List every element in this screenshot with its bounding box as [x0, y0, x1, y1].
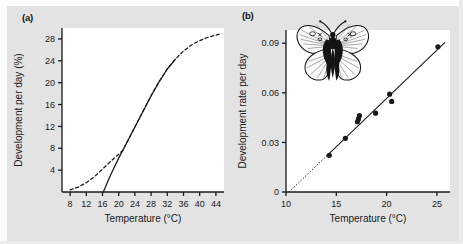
panel-a-plot: 4812162024288121620242832364044Temperatu… — [0, 0, 232, 244]
x-tick-label: 8 — [68, 199, 73, 209]
panel-b: 00.030.060.0910152025Temperature (°C)Dev… — [228, 0, 463, 244]
x-tick-label: 20 — [382, 199, 392, 209]
y-tick-label: 24 — [45, 56, 55, 66]
panel-a: 4812162024288121620242832364044Temperatu… — [0, 0, 232, 244]
x-tick-label: 16 — [97, 199, 107, 209]
butterfly-antenna-club-left — [319, 20, 321, 22]
y-tick-label: 20 — [45, 78, 55, 88]
x-tick-label: 20 — [114, 199, 124, 209]
x-tick-label: 25 — [432, 199, 442, 209]
x-tick-label: 28 — [146, 199, 156, 209]
x-tick-label: 40 — [195, 199, 205, 209]
y-tick-label: 12 — [45, 122, 55, 132]
data-point — [435, 44, 440, 49]
y-axis-title: Development per day (%) — [13, 53, 24, 166]
x-tick-label: 10 — [281, 199, 291, 209]
y-tick-label: 28 — [45, 34, 55, 44]
y-tick-label: 0.09 — [261, 38, 279, 48]
butterfly-thorax — [329, 37, 337, 50]
y-tick-label: 4 — [50, 165, 55, 175]
y-tick-label: 0 — [274, 187, 279, 197]
y-tick-label: 16 — [45, 100, 55, 110]
y-tick-label: 0.06 — [261, 88, 279, 98]
panel-b-label: (b) — [242, 10, 254, 21]
data-point — [357, 113, 362, 118]
butterfly-illustration — [297, 20, 369, 80]
x-tick-label: 12 — [81, 199, 91, 209]
figure-container: 4812162024288121620242832364044Temperatu… — [0, 0, 463, 244]
plot-area-background — [62, 28, 224, 192]
butterfly-antenna-club-right — [344, 20, 346, 22]
x-axis-title: Temperature (°C) — [330, 213, 407, 224]
plot-area-background — [286, 30, 450, 192]
data-point — [343, 136, 348, 141]
x-axis-title: Temperature (°C) — [105, 213, 182, 224]
y-tick-label: 0.03 — [261, 138, 279, 148]
y-axis-title: Development rate per day — [237, 53, 248, 168]
x-tick-label: 24 — [130, 199, 140, 209]
x-tick-label: 44 — [211, 199, 221, 209]
data-point — [373, 111, 378, 116]
data-point — [387, 92, 392, 97]
x-tick-label: 32 — [162, 199, 172, 209]
data-point — [389, 99, 394, 104]
panel-b-plot: 00.030.060.0910152025Temperature (°C)Dev… — [228, 0, 463, 244]
panel-a-label: (a) — [22, 12, 33, 23]
data-point — [327, 153, 332, 158]
x-tick-label: 36 — [178, 199, 188, 209]
x-tick-label: 15 — [331, 199, 341, 209]
y-tick-label: 8 — [50, 143, 55, 153]
